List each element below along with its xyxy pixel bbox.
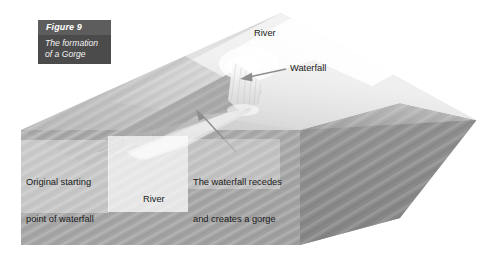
figure-caption-box: Figure 9 The formation of a Gorge bbox=[38, 20, 111, 64]
label-river-top: River bbox=[254, 27, 276, 39]
figure-subtitle-line1: The formation bbox=[45, 38, 106, 49]
figure-subtitle: The formation of a Gorge bbox=[38, 35, 111, 64]
label-original-starting-point-line2: point of waterfall bbox=[26, 213, 94, 225]
label-river-bottom: River bbox=[143, 193, 165, 205]
figure-container: Figure 9 The formation of a Gorge River … bbox=[0, 0, 502, 260]
label-waterfall-recedes: The waterfall recedes and creates a gorg… bbox=[193, 152, 282, 250]
figure-number-band: Figure 9 bbox=[38, 20, 111, 35]
label-waterfall-recedes-line1: The waterfall recedes bbox=[193, 176, 282, 188]
label-waterfall-recedes-line2: and creates a gorge bbox=[193, 213, 282, 225]
label-original-starting-point-line1: Original starting bbox=[26, 176, 94, 188]
figure-subtitle-line2: of a Gorge bbox=[45, 49, 106, 60]
label-original-starting-point: Original starting point of waterfall bbox=[26, 152, 94, 250]
figure-number: Figure 9 bbox=[46, 22, 105, 33]
label-waterfall: Waterfall bbox=[290, 62, 326, 74]
